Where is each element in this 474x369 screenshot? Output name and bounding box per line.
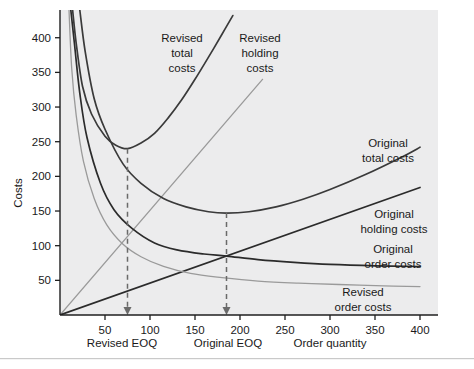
x-tick-label: 400 bbox=[410, 324, 429, 336]
y-tick-label: 100 bbox=[32, 240, 51, 252]
original-eoq-label: Original EOQ bbox=[194, 337, 262, 349]
y-tick-label: 300 bbox=[32, 101, 51, 113]
x-axis-title: Order quantity bbox=[294, 337, 367, 349]
x-tick-label: 350 bbox=[365, 324, 384, 336]
label-line-1: Original bbox=[368, 137, 408, 149]
y-tick-label: 350 bbox=[32, 66, 51, 78]
x-tick-label: 200 bbox=[230, 324, 249, 336]
label-line-2: holding bbox=[241, 47, 278, 59]
label-line-1: Original bbox=[373, 243, 413, 255]
y-tick-label: 400 bbox=[32, 32, 51, 44]
label-line-2: order costs bbox=[335, 301, 392, 313]
x-tick-label: 250 bbox=[275, 324, 294, 336]
label-line-2: holding costs bbox=[360, 223, 427, 235]
label-line-3: costs bbox=[247, 62, 274, 74]
y-axis-title: Costs bbox=[12, 178, 24, 208]
x-tick-label: 50 bbox=[99, 324, 112, 336]
label-line-1: Revised bbox=[239, 32, 281, 44]
label-line-3: costs bbox=[169, 62, 196, 74]
chart-figure: 5010015020025030035040050100150200250300… bbox=[0, 0, 474, 369]
label-line-1: Revised bbox=[342, 286, 384, 298]
y-tick-label: 200 bbox=[32, 170, 51, 182]
y-tick-label: 50 bbox=[38, 274, 51, 286]
y-tick-label: 250 bbox=[32, 136, 51, 148]
revised-eoq-label: Revised EOQ bbox=[87, 337, 157, 349]
label-line-1: Revised bbox=[161, 32, 203, 44]
footer-divider bbox=[0, 358, 474, 359]
label-line-1: Original bbox=[374, 208, 414, 220]
y-tick-label: 150 bbox=[32, 205, 51, 217]
x-tick-label: 150 bbox=[185, 324, 204, 336]
label-line-2: order costs bbox=[365, 258, 422, 270]
label-line-2: total costs bbox=[362, 152, 414, 164]
eoq-cost-chart: 5010015020025030035040050100150200250300… bbox=[0, 0, 474, 369]
x-tick-label: 100 bbox=[140, 324, 159, 336]
label-line-2: total bbox=[171, 47, 193, 59]
x-tick-label: 300 bbox=[320, 324, 339, 336]
